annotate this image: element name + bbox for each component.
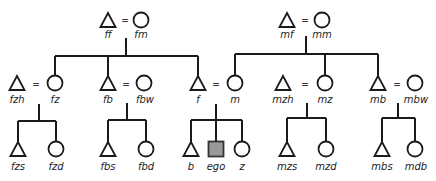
- node-fb: fb: [101, 76, 116, 105]
- node-fzs: fzs: [11, 142, 26, 172]
- marriage-sign: =: [122, 79, 130, 89]
- node-mf: mf: [280, 13, 296, 40]
- male-triangle-icon: [101, 13, 116, 27]
- female-circle-icon: [319, 142, 334, 157]
- node-mb: mb: [370, 76, 386, 105]
- label-fz: fz: [51, 94, 61, 105]
- label-fzd: fzd: [48, 161, 64, 172]
- node-z: z: [235, 142, 250, 173]
- female-circle-icon: [408, 76, 423, 91]
- female-circle-icon: [137, 76, 152, 91]
- label-mzh: mzh: [272, 94, 293, 105]
- label-fbs: fbs: [100, 161, 115, 172]
- label-fb: fb: [103, 94, 113, 105]
- female-circle-icon: [49, 142, 64, 157]
- label-f: f: [196, 94, 201, 105]
- female-circle-icon: [318, 76, 333, 91]
- label-z: z: [238, 161, 245, 172]
- descent-lines: [18, 36, 415, 142]
- node-fbs: fbs: [100, 142, 115, 172]
- male-triangle-icon: [375, 142, 390, 156]
- node-fm: fm: [134, 13, 149, 41]
- male-triangle-icon: [10, 76, 25, 90]
- node-mbs: mbs: [371, 142, 392, 172]
- label-mf: mf: [280, 29, 295, 40]
- node-fzd: fzd: [48, 142, 64, 173]
- male-triangle-icon: [371, 76, 386, 90]
- female-circle-icon: [228, 76, 243, 91]
- node-ego: ego: [207, 142, 226, 173]
- node-ff: ff: [101, 13, 116, 40]
- node-fz: fz: [48, 76, 63, 106]
- label-mbw: mbw: [404, 94, 429, 105]
- label-m: m: [230, 94, 240, 105]
- label-fzs: fzs: [11, 161, 25, 172]
- marriage-sign: =: [32, 79, 40, 89]
- female-circle-icon: [48, 76, 63, 91]
- node-fbd: fbd: [138, 142, 155, 173]
- marriage-sign: =: [301, 79, 309, 89]
- kinship-diagram: ff = fm mf = mm fzh = fz fb = fbw f = m: [0, 0, 436, 181]
- male-triangle-icon: [280, 142, 295, 156]
- node-b: b: [184, 142, 199, 172]
- node-mm: mm: [312, 13, 332, 41]
- male-triangle-icon: [101, 76, 116, 90]
- node-mdb: mdb: [405, 142, 427, 173]
- label-fbd: fbd: [138, 161, 155, 172]
- node-mzd: mzd: [315, 142, 337, 173]
- label-ff: ff: [104, 29, 113, 40]
- label-mb: mb: [370, 94, 386, 105]
- female-circle-icon: [408, 142, 423, 157]
- node-fzh: fzh: [9, 76, 24, 105]
- label-mm: mm: [312, 29, 332, 40]
- ego-square-icon: [209, 142, 224, 157]
- male-triangle-icon: [191, 76, 206, 90]
- female-circle-icon: [139, 142, 154, 157]
- label-mdb: mdb: [405, 161, 427, 172]
- node-mbw: mbw: [404, 76, 429, 106]
- label-fzh: fzh: [9, 94, 24, 105]
- marriage-sign: =: [301, 15, 309, 25]
- marriage-sign: =: [393, 79, 401, 89]
- male-triangle-icon: [184, 142, 199, 156]
- node-mzs: mzs: [277, 142, 297, 172]
- node-m: m: [228, 76, 243, 106]
- node-mz: mz: [318, 76, 334, 106]
- label-mzs: mzs: [277, 161, 297, 172]
- label-mzd: mzd: [315, 161, 337, 172]
- label-ego: ego: [207, 161, 226, 172]
- marriage-sign: =: [121, 15, 129, 25]
- node-mzh: mzh: [272, 76, 293, 105]
- label-b: b: [188, 161, 194, 172]
- male-triangle-icon: [101, 142, 116, 156]
- node-f: f: [191, 76, 206, 105]
- label-fbw: fbw: [136, 94, 155, 105]
- marriage-sign: =: [212, 79, 220, 89]
- label-mz: mz: [318, 94, 334, 105]
- label-fm: fm: [134, 29, 148, 40]
- male-triangle-icon: [276, 76, 291, 90]
- female-circle-icon: [235, 142, 250, 157]
- label-mbs: mbs: [371, 161, 392, 172]
- male-triangle-icon: [11, 142, 26, 156]
- male-triangle-icon: [280, 13, 295, 27]
- node-fbw: fbw: [136, 76, 155, 106]
- female-circle-icon: [134, 13, 149, 28]
- female-circle-icon: [315, 13, 330, 28]
